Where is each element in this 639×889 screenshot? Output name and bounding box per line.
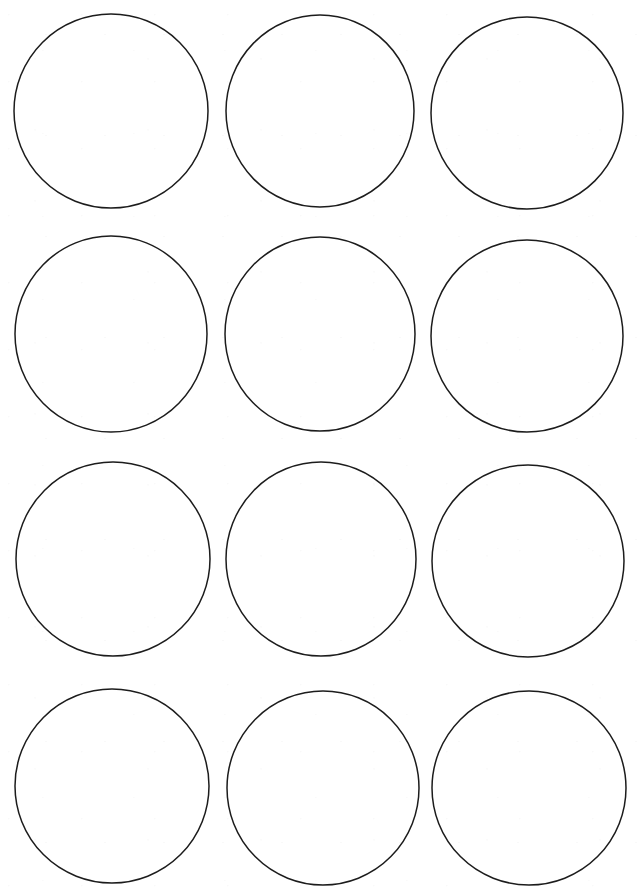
paper-background — [0, 0, 639, 889]
circle-template-sheet — [0, 0, 639, 889]
template-page — [0, 0, 639, 889]
